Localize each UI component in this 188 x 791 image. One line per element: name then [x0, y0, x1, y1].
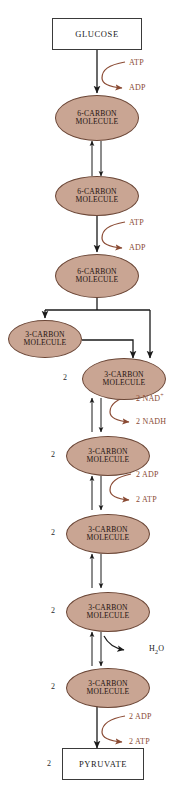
cofactor-curve-atp1-adp1: [102, 62, 125, 88]
cofactor-water-o: O: [158, 644, 164, 653]
node-label-line2: MOLECULE: [87, 534, 130, 543]
stoich-c3-molecule-3: 2: [46, 528, 60, 537]
arrow-c3d-to-c3e: [92, 632, 101, 666]
arrow-c3c-to-c3d: [92, 554, 101, 588]
node-label-line2: MOLECULE: [87, 612, 130, 621]
node-c3-molecule-branch[interactable]: 3-CARBON MOLECULE: [8, 320, 82, 358]
cofactor-curve-atp2-adp2: [102, 222, 125, 248]
node-glucose[interactable]: GLUCOSE: [52, 18, 142, 50]
node-label-line2: MOLECULE: [76, 196, 119, 205]
arrow-c3b-to-c3c: [92, 476, 101, 510]
node-c6-molecule-2[interactable]: 6-CARBON MOLECULE: [55, 176, 139, 216]
cofactor-curve-adp3-atp3: [110, 474, 131, 500]
stoich-pyruvate: 2: [42, 759, 56, 768]
node-pyruvate[interactable]: PYRUVATE: [62, 748, 144, 780]
cofactor-nadh: 2 NADH: [136, 417, 166, 426]
glycolysis-diagram: GLUCOSE 6-CARBON MOLECULE 6-CARBON MOLEC…: [0, 0, 188, 791]
cofactor-atp-3: 2 ATP: [136, 495, 157, 504]
node-label-line2: MOLECULE: [103, 379, 146, 388]
stoich-c3-molecule-1: 2: [58, 373, 72, 382]
stoich-c3-molecule-2: 2: [46, 450, 60, 459]
node-glucose-label: GLUCOSE: [75, 29, 118, 39]
node-c6-molecule-3[interactable]: 6-CARBON MOLECULE: [55, 254, 139, 298]
cofactor-atp-1: ATP: [129, 58, 144, 67]
node-c6-molecule-1[interactable]: 6-CARBON MOLECULE: [55, 95, 139, 141]
node-pyruvate-label: PYRUVATE: [79, 759, 127, 769]
cofactor-water: H2O: [149, 644, 164, 655]
cofactor-atp-2: ATP: [129, 218, 144, 227]
stoich-c3-molecule-5: 2: [46, 682, 60, 691]
node-c3-molecule-4[interactable]: 3-CARBON MOLECULE: [66, 592, 150, 632]
arrow-c3left-to-c3a: [82, 340, 133, 358]
arrow-c3a-to-c3b: [92, 398, 101, 432]
cofactor-nad-superscript: +: [160, 392, 164, 398]
stoich-c3-molecule-4: 2: [46, 606, 60, 615]
node-label-line2: MOLECULE: [24, 339, 67, 348]
cofactor-adp-4: 2 ADP: [129, 712, 152, 721]
cofactor-adp-2: ADP: [129, 243, 146, 252]
node-label-line2: MOLECULE: [76, 276, 119, 285]
cofactor-curve-adp4-atp4: [102, 716, 125, 742]
cofactor-adp-1: ADP: [129, 83, 146, 92]
node-c3-molecule-3[interactable]: 3-CARBON MOLECULE: [66, 514, 150, 554]
node-label-line2: MOLECULE: [87, 456, 130, 465]
arrow-water-out: [104, 636, 124, 650]
node-label-line2: MOLECULE: [76, 118, 119, 127]
cofactor-nad-plus: 2 NAD+: [136, 392, 164, 403]
cofactor-nad-text: 2 NAD: [136, 394, 160, 403]
cofactor-atp-4: 2 ATP: [129, 737, 150, 746]
cofactor-adp-3: 2 ADP: [136, 470, 159, 479]
node-label-line2: MOLECULE: [87, 688, 130, 697]
arrow-c6a-to-c6b: [92, 141, 101, 176]
node-c3-molecule-5[interactable]: 3-CARBON MOLECULE: [66, 668, 150, 708]
